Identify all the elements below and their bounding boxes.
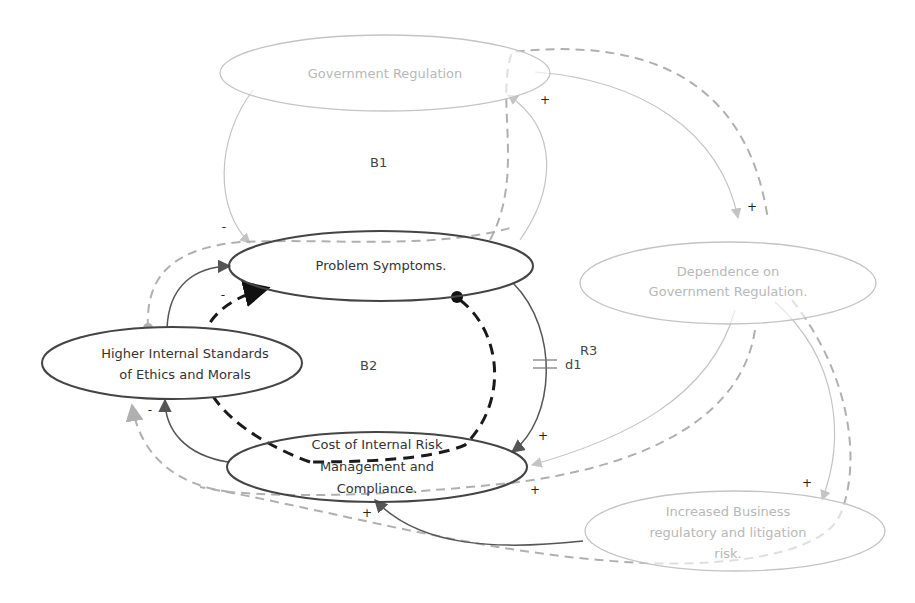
link-cost-to-ethics[interactable] [165, 400, 228, 462]
polarity-cost-to-ethics: - [148, 403, 152, 417]
link-risk-to-cost[interactable] [375, 500, 583, 545]
node-increased-business-risk[interactable]: Increased Business regulatory and litiga… [585, 491, 885, 571]
node-label-line-1: Higher Internal Standards [101, 346, 269, 361]
node-label-line-1: Dependence on [677, 264, 779, 279]
polarity-ethics-to-problem: - [221, 288, 225, 302]
polarity-risk-to-cost: + [362, 506, 372, 520]
polarity-gov-to-problem: - [222, 220, 226, 234]
node-label: Problem Symptoms. [316, 258, 447, 273]
node-label-line-2: regulatory and litigation [650, 525, 807, 540]
node-problem-symptoms[interactable]: Problem Symptoms. [229, 231, 533, 301]
node-label-line-2: Government Regulation. [649, 284, 808, 299]
delay-label: d1 [565, 357, 582, 372]
node-label-line-2: Management and [320, 459, 434, 474]
delay-mark [533, 360, 557, 368]
node-higher-internal-standards[interactable]: Higher Internal Standards of Ethics and … [42, 327, 302, 399]
dashed-link-to-ethics[interactable] [132, 405, 230, 492]
causal-loop-diagram: Government Regulation Dependence on Gove… [0, 0, 915, 603]
polarity-problem-to-cost: + [538, 429, 548, 443]
link-dependence-to-cost[interactable] [532, 310, 735, 465]
node-label-line-3: Compliance. [337, 481, 418, 496]
dashed-link-ethics-to-problem[interactable] [148, 228, 510, 328]
link-problem-to-gov[interactable] [508, 95, 547, 240]
loop-label-b2: B2 [360, 358, 377, 373]
polarity-gov-to-dependence: + [747, 200, 757, 214]
node-cost-of-internal-risk-management[interactable]: Cost of Internal Risk Management and Com… [227, 432, 527, 502]
node-dependence-on-government-regulation[interactable]: Dependence on Government Regulation. [580, 242, 876, 324]
dashed-link-dependence-to-cost-inner[interactable] [230, 330, 755, 495]
link-dependence-to-risk[interactable] [775, 302, 834, 500]
link-gov-to-problem[interactable] [224, 90, 253, 243]
dark-links [165, 266, 583, 545]
polarity-dependence-to-cost: + [530, 483, 540, 497]
node-label: Government Regulation [308, 66, 463, 81]
polarity-problem-to-gov: + [540, 93, 550, 107]
loop-label-b1: B1 [370, 155, 387, 170]
node-label-line-1: Increased Business [666, 504, 791, 519]
node-label-line-3: risk. [714, 546, 741, 561]
node-label-line-1: Cost of Internal Risk [312, 437, 443, 452]
node-label-line-2: of Ethics and Morals [119, 367, 251, 382]
loop-label-r3: R3 [580, 343, 597, 358]
node-government-regulation[interactable]: Government Regulation [220, 35, 550, 111]
link-gov-to-dependence[interactable] [535, 72, 738, 218]
polarity-dependence-to-risk: + [802, 476, 812, 490]
